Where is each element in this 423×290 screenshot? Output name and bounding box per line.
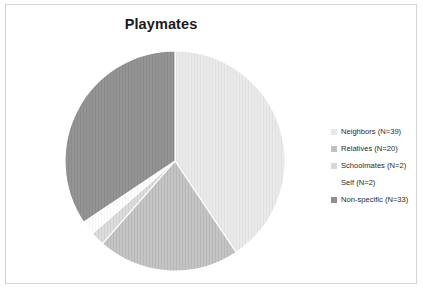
pie-chart-svg bbox=[59, 43, 291, 279]
page-title: Playmates bbox=[6, 16, 316, 32]
legend-label-schoolmates: Schoolmates (N=2) bbox=[341, 162, 406, 170]
legend-swatch-neighbors bbox=[331, 129, 337, 135]
legend-label-non-specific: Non-specific (N=33) bbox=[341, 196, 408, 204]
pie-slices bbox=[65, 51, 285, 271]
legend-swatch-schoolmates bbox=[331, 163, 337, 169]
chart-frame: Playmates bbox=[5, 4, 417, 284]
legend-item-non-specific: Non-specific (N=33) bbox=[331, 191, 423, 208]
legend-swatch-self bbox=[331, 180, 337, 186]
legend-item-schoolmates: Schoolmates (N=2) bbox=[331, 157, 423, 174]
legend-item-relatives: Relatives (N=20) bbox=[331, 140, 423, 157]
pie-chart bbox=[59, 43, 291, 279]
chart-legend: Neighbors (N=39) Relatives (N=20) School… bbox=[331, 123, 423, 208]
legend-swatch-non-specific bbox=[331, 197, 337, 203]
legend-label-relatives: Relatives (N=20) bbox=[341, 145, 398, 153]
legend-label-neighbors: Neighbors (N=39) bbox=[341, 128, 401, 136]
legend-swatch-relatives bbox=[331, 146, 337, 152]
legend-item-self: Self (N=2) bbox=[331, 174, 423, 191]
legend-label-self: Self (N=2) bbox=[341, 179, 375, 187]
legend-item-neighbors: Neighbors (N=39) bbox=[331, 123, 423, 140]
